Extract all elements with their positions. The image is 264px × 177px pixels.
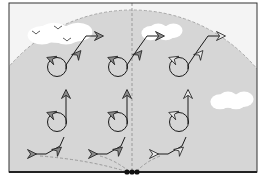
flight-pattern-diagram	[0, 0, 264, 177]
observer-icon	[124, 169, 139, 174]
observer-dot	[129, 169, 134, 174]
diagram-canvas	[0, 0, 264, 177]
observer-dot	[134, 169, 139, 174]
observer-dot	[124, 169, 129, 174]
